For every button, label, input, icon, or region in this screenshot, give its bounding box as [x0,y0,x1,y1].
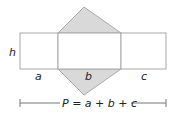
perimeter-formula: P = a + b + c [62,97,137,110]
left-rect-face [20,33,58,69]
side-c-label: c [141,70,147,83]
prism-net-diagram: h a b c P = a + b + c [0,0,174,114]
side-a-label: a [35,70,42,83]
middle-rect-face [58,33,121,69]
top-triangle-face [58,7,121,33]
height-label: h [9,46,16,59]
side-b-label: b [85,70,92,83]
right-rect-face [121,33,166,69]
